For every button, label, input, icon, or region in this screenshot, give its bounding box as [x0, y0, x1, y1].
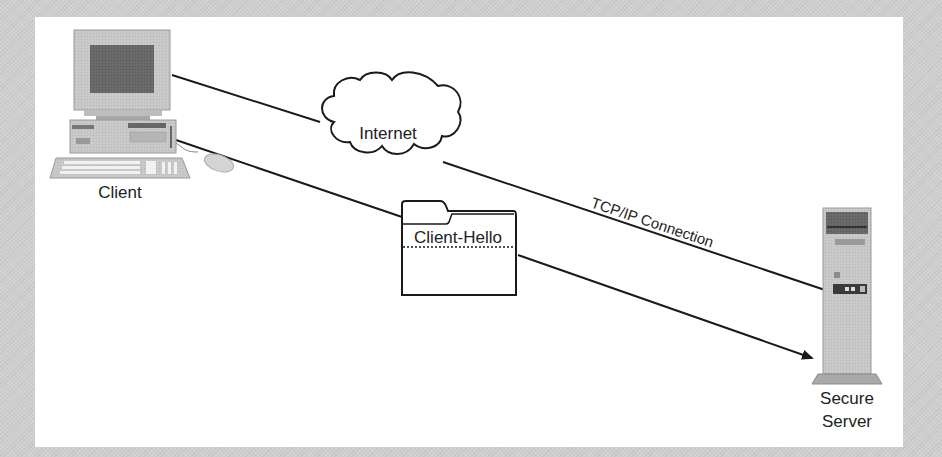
secure-server-label-line1: Secure: [820, 389, 874, 408]
internet-label: Internet: [359, 124, 417, 143]
secure-server-icon: [812, 208, 882, 384]
client-computer-icon: [50, 30, 236, 178]
client-hello-label: Client-Hello: [414, 228, 502, 247]
secure-server-label-line2: Server: [822, 412, 872, 431]
client-label: Client: [98, 183, 142, 202]
network-diagram: Client Internet Client-Hello TCP/IP Conn…: [0, 0, 942, 457]
tcp-ip-connection-label: TCP/IP Connection: [589, 194, 716, 251]
client-hello-folder-icon: [402, 201, 516, 295]
